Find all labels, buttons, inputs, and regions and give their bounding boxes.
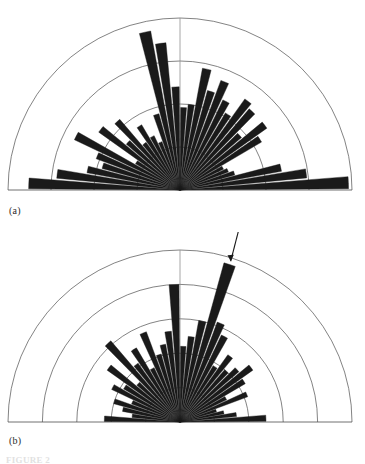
rose-chart-b (0, 232, 365, 437)
rose-chart-a (0, 0, 365, 205)
rose-petals (29, 31, 349, 190)
radial-grid (8, 18, 352, 190)
peak-arrow (227, 232, 238, 261)
rose-diagram-panel-b: (b) FIGURE 2 (0, 232, 365, 464)
radial-grid (8, 250, 352, 422)
panel-label-b: (b) (9, 436, 21, 446)
figure-container: (a) (b) FIGURE 2 (0, 0, 365, 464)
rose-diagram-panel-a: (a) (0, 0, 365, 232)
rose-petals (104, 263, 266, 422)
figure-caption-stub: FIGURE 2 (6, 454, 50, 464)
panel-label-a: (a) (9, 206, 21, 216)
arrow-head-icon (227, 255, 233, 262)
